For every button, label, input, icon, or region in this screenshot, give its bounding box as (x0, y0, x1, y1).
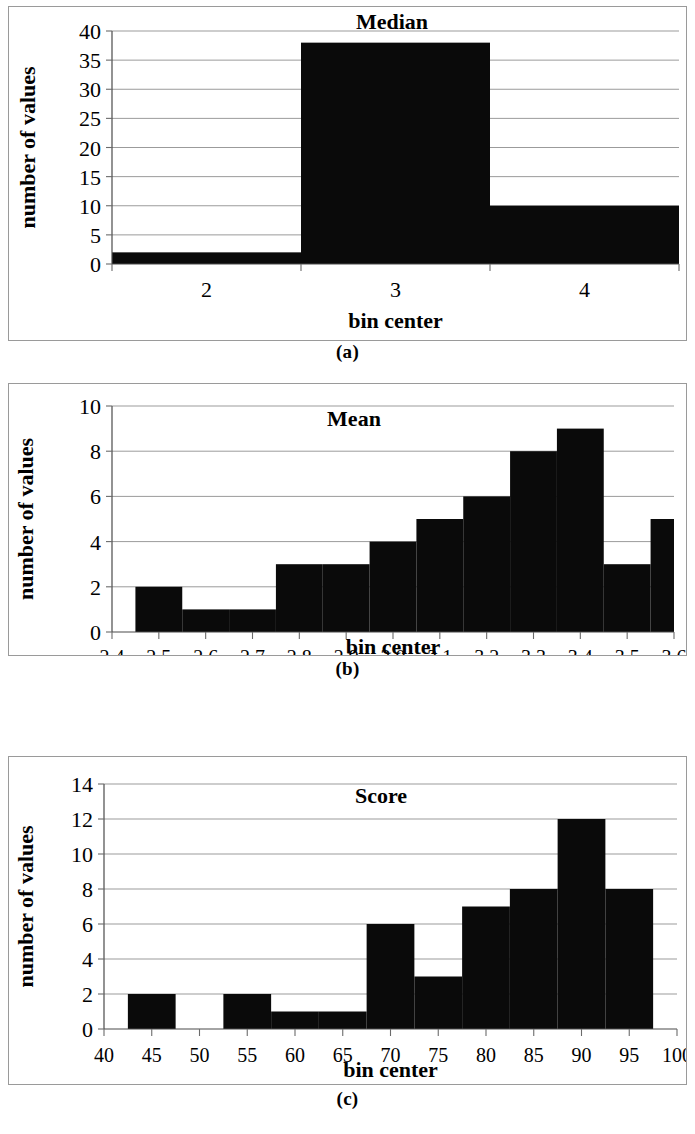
bar (182, 609, 229, 632)
histogram-score: 02468101214404550556065707580859095100Sc… (9, 757, 686, 1084)
bar (271, 1012, 319, 1030)
x-tick-label: 3.6 (662, 646, 687, 655)
x-tick-label: 90 (572, 1044, 592, 1066)
x-tick-label: 2.4 (100, 646, 125, 655)
bar (276, 564, 323, 632)
y-tick-label: 35 (79, 48, 101, 73)
x-tick-label: 2 (201, 277, 212, 302)
x-tick-label: 3 (390, 277, 401, 302)
bar (135, 587, 182, 632)
bar (605, 889, 653, 1029)
bar (128, 994, 176, 1029)
y-tick-label: 30 (79, 77, 101, 102)
bar (558, 819, 606, 1029)
y-tick-label: 4 (82, 947, 93, 972)
chart-panel-score: 02468101214404550556065707580859095100Sc… (8, 756, 687, 1085)
x-axis-title: bin center (346, 634, 441, 655)
y-axis-title: number of values (15, 66, 40, 229)
bar (462, 907, 510, 1030)
subfigure-caption-a: (a) (0, 341, 695, 363)
y-tick-label: 0 (90, 252, 101, 277)
y-tick-label: 8 (82, 877, 93, 902)
bar (414, 977, 462, 1030)
x-tick-label: 2.7 (240, 646, 265, 655)
x-tick-label: 40 (94, 1044, 114, 1066)
bar (510, 451, 557, 632)
y-tick-label: 4 (90, 530, 101, 555)
y-tick-label: 8 (90, 439, 101, 464)
x-tick-label: 85 (524, 1044, 544, 1066)
histogram-mean: 02468102.42.52.62.72.82.93.03.13.23.33.4… (9, 384, 686, 655)
bar (416, 519, 463, 632)
x-tick-label: 80 (476, 1044, 496, 1066)
x-tick-label: 4 (579, 277, 590, 302)
y-tick-label: 20 (79, 136, 101, 161)
x-tick-label: 3.2 (474, 646, 499, 655)
chart-panel-median: 0510152025303540234Medianbin centernumbe… (8, 6, 687, 341)
bar (229, 609, 276, 632)
y-tick-label: 10 (79, 394, 101, 419)
bar-series (135, 429, 674, 632)
x-tick-label: 50 (190, 1044, 210, 1066)
y-tick-label: 10 (71, 842, 93, 867)
figure-page: 0510152025303540234Medianbin centernumbe… (0, 0, 695, 1134)
x-tick-label: 3.3 (521, 646, 546, 655)
x-tick-label: 2.6 (193, 646, 218, 655)
x-tick-label: 3.4 (568, 646, 593, 655)
x-axis-title: bin center (348, 308, 443, 333)
y-tick-label: 2 (90, 575, 101, 600)
y-axis-title: number of values (13, 825, 38, 988)
bar-series (112, 43, 679, 264)
x-tick-label: 55 (237, 1044, 257, 1066)
bar (557, 429, 604, 632)
x-tick-label: 95 (619, 1044, 639, 1066)
chart-panel-mean: 02468102.42.52.62.72.82.93.03.13.23.33.4… (8, 383, 687, 656)
histogram-median: 0510152025303540234Medianbin centernumbe… (9, 7, 686, 340)
bar (490, 206, 679, 264)
y-tick-label: 40 (79, 19, 101, 44)
bar (367, 924, 415, 1029)
x-tick-label: 3.5 (615, 646, 640, 655)
y-tick-label: 0 (82, 1017, 93, 1042)
y-axis-title: number of values (13, 437, 38, 600)
subfigure-caption-b: (b) (0, 658, 695, 680)
y-tick-label: 2 (82, 982, 93, 1007)
y-tick-label: 12 (71, 807, 93, 832)
y-tick-label: 15 (79, 165, 101, 190)
x-tick-label: 45 (142, 1044, 162, 1066)
y-tick-label: 14 (71, 772, 93, 797)
bar (510, 889, 558, 1029)
x-tick-label: 100 (662, 1044, 686, 1066)
y-tick-label: 6 (90, 484, 101, 509)
x-axis-title: bin center (343, 1057, 438, 1082)
bar (112, 252, 301, 264)
bar (223, 994, 271, 1029)
chart-title: Score (355, 783, 407, 808)
bar (301, 43, 490, 264)
x-tick-label: 60 (285, 1044, 305, 1066)
y-tick-label: 25 (79, 106, 101, 131)
bar (323, 564, 370, 632)
bar (463, 496, 510, 632)
y-tick-label: 0 (90, 620, 101, 645)
subfigure-caption-c: (c) (0, 1088, 695, 1110)
y-tick-label: 6 (82, 912, 93, 937)
chart-title: Mean (327, 406, 381, 431)
bar (370, 542, 417, 632)
x-tick-label: 2.8 (287, 646, 312, 655)
bar (651, 519, 674, 632)
y-tick-label: 5 (90, 223, 101, 248)
bar (319, 1012, 367, 1030)
chart-title: Median (356, 9, 428, 34)
y-tick-label: 10 (79, 194, 101, 219)
bar (604, 564, 651, 632)
x-tick-label: 2.5 (146, 646, 171, 655)
